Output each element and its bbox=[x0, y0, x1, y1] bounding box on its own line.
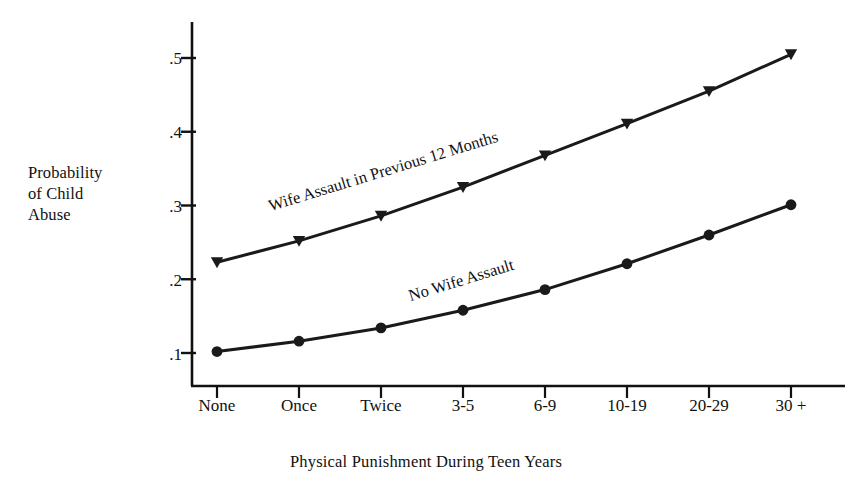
data-point-circle bbox=[704, 230, 715, 241]
axis-lines bbox=[191, 22, 845, 386]
data-point-circle bbox=[294, 336, 305, 347]
data-point-circle bbox=[212, 346, 223, 357]
x-tick-marks bbox=[217, 386, 791, 398]
data-point-circle bbox=[458, 305, 469, 316]
data-series bbox=[212, 199, 797, 357]
data-point-triangle bbox=[211, 257, 223, 268]
y-tick-marks bbox=[181, 58, 196, 353]
plot-area bbox=[0, 0, 852, 495]
data-point-circle bbox=[786, 199, 797, 210]
data-point-circle bbox=[540, 284, 551, 295]
series-line bbox=[217, 205, 791, 352]
series-line bbox=[217, 54, 791, 262]
chart-figure: Probability of Child Abuse .1 .2 .3 .4 .… bbox=[0, 0, 852, 495]
data-point-circle bbox=[622, 258, 633, 269]
data-point-circle bbox=[376, 323, 387, 334]
data-series-group bbox=[211, 49, 797, 357]
